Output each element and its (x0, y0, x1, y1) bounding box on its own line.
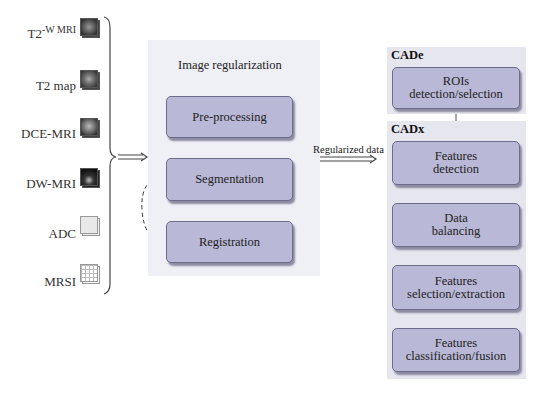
step-features-classification: Features classification/fusion (392, 328, 520, 372)
step-segmentation: Segmentation (166, 158, 293, 201)
step-registration: Registration (166, 221, 293, 263)
regularized-data-label: Regularized data (313, 144, 384, 155)
image-regularization-title: Image regularization (178, 58, 282, 73)
step-features-selection: Features selection/extraction (392, 265, 520, 310)
step-features-detection: Features detection (392, 141, 520, 185)
cade-title: CADe (391, 48, 424, 63)
step-pre-processing: Pre-processing (166, 96, 293, 138)
cadx-title: CADx (391, 122, 424, 137)
step-data-balancing: Data balancing (392, 203, 520, 247)
step-rois-detection: ROIs detection/selection (392, 67, 520, 109)
